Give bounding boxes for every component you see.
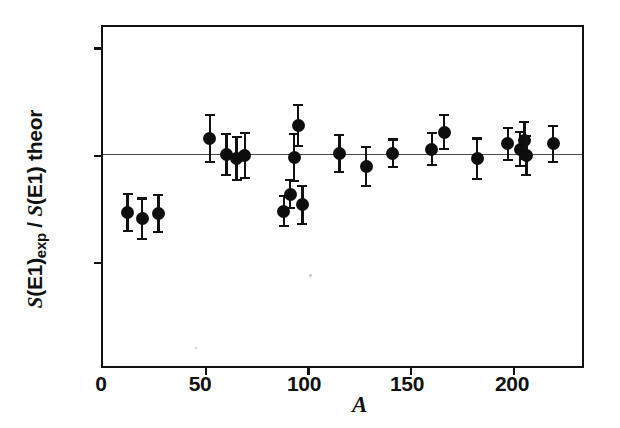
scan-speckle: [195, 347, 197, 349]
figure-container: 1.5 1.0 0.5 0.0 0 50 100 150 200 A S(E1)…: [0, 0, 620, 428]
data-marker: [238, 149, 251, 162]
y-axis-symbol-s2: S: [23, 205, 47, 217]
x-tick-label-200: 200: [482, 372, 542, 396]
x-tick-label-0: 0: [71, 372, 131, 396]
error-bar-cap-lower: [521, 174, 531, 176]
x-tick-100: [307, 366, 309, 375]
error-bar-cap-upper: [521, 135, 531, 137]
error-bar-cap-lower: [137, 238, 147, 240]
error-bar-cap-lower: [334, 171, 344, 173]
error-bar-cap-upper: [439, 114, 449, 116]
y-tick-0.5: [94, 262, 103, 264]
x-tick-50: [205, 366, 207, 375]
data-marker: [360, 160, 373, 173]
y-axis-symbol-s1: S: [23, 297, 47, 309]
error-bar-cap-lower: [427, 164, 437, 166]
error-bar-cap-lower: [472, 178, 482, 180]
x-tick-150: [410, 366, 412, 375]
error-bar-cap-lower: [515, 165, 525, 167]
data-marker: [296, 198, 309, 211]
error-bar-cap-lower: [439, 148, 449, 150]
data-marker: [425, 143, 438, 156]
error-bar-cap-upper: [153, 194, 163, 196]
data-marker: [547, 137, 560, 150]
data-marker: [471, 152, 484, 165]
error-bar-cap-lower: [279, 225, 289, 227]
x-tick-200: [513, 366, 515, 375]
error-bar-cap-upper: [388, 138, 398, 140]
y-axis-paren-2: (E1): [23, 166, 46, 204]
data-marker: [284, 188, 297, 201]
y-axis-slash: /: [23, 217, 46, 234]
data-marker: [438, 126, 451, 139]
y-axis-title: S(E1)exp / S(E1) theor: [23, 9, 49, 409]
data-marker: [333, 147, 346, 160]
error-bar-cap-lower: [240, 177, 250, 179]
data-marker: [152, 207, 165, 220]
data-marker: [203, 132, 216, 145]
y-axis-theor-text: theor: [23, 110, 46, 167]
error-bar-cap-upper: [548, 125, 558, 127]
error-bar-cap-upper: [503, 127, 513, 129]
y-tick-1: [94, 155, 103, 157]
data-marker: [292, 119, 305, 132]
error-bar-cap-upper: [293, 104, 303, 106]
error-bar-cap-lower: [123, 230, 133, 232]
error-bar-cap-upper: [205, 114, 215, 116]
error-bar-cap-upper: [137, 197, 147, 199]
error-bar-cap-upper: [519, 121, 529, 123]
error-bar-cap-lower: [232, 179, 242, 181]
data-marker: [386, 147, 399, 160]
error-bar-cap-lower: [205, 161, 215, 163]
error-bar-cap-lower: [285, 207, 295, 209]
error-bar-cap-lower: [153, 231, 163, 233]
error-bar-cap-upper: [427, 132, 437, 134]
x-tick-label-100: 100: [274, 372, 334, 396]
error-bar-cap-upper: [232, 136, 242, 138]
data-marker: [121, 206, 134, 219]
x-tick-label-50: 50: [170, 372, 230, 396]
data-marker: [520, 149, 533, 162]
x-tick-label-150: 150: [377, 372, 437, 396]
data-marker: [501, 137, 514, 150]
error-bar-cap-lower: [548, 161, 558, 163]
error-bar-cap-lower: [503, 159, 513, 161]
error-bar-cap-upper: [334, 134, 344, 136]
x-axis-title: A: [352, 392, 367, 418]
y-axis-subscript-exp: exp: [32, 233, 49, 258]
data-marker: [288, 151, 301, 164]
y-axis-paren-1: (E1): [23, 258, 46, 296]
error-bar-cap-lower: [221, 174, 231, 176]
error-bar-cap-upper: [123, 193, 133, 195]
y-tick-1.5: [94, 47, 103, 49]
error-bar-cap-lower: [289, 180, 299, 182]
error-bar-cap-lower: [293, 145, 303, 147]
error-bar-cap-lower: [361, 185, 371, 187]
error-bar-cap-lower: [388, 166, 398, 168]
error-bar-cap-upper: [240, 132, 250, 134]
error-bar-cap-upper: [297, 185, 307, 187]
error-bar-cap-lower: [297, 223, 307, 225]
data-marker: [136, 212, 149, 225]
error-bar-cap-upper: [221, 133, 231, 135]
error-bar-cap-upper: [361, 146, 371, 148]
error-bar-cap-upper: [472, 137, 482, 139]
scan-speckle: [309, 274, 312, 277]
plot-area: [101, 25, 584, 368]
